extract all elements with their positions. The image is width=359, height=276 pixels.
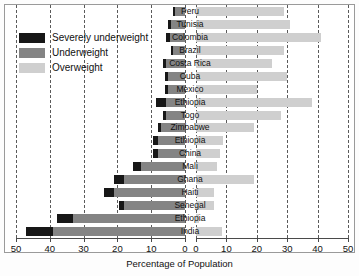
chart-figure: PeruTunisiaColombiaBrazilCosta RicaCubaM… bbox=[0, 0, 359, 276]
bar-segment-severely-underweight bbox=[26, 227, 53, 236]
country-label: Colombia bbox=[159, 33, 221, 42]
country-label: Mali bbox=[159, 162, 221, 171]
bar-segment-severely-underweight bbox=[133, 162, 141, 171]
axis-tick-label: 40 bbox=[305, 243, 331, 254]
axis-tick bbox=[348, 238, 349, 242]
bar-segment-severely-underweight bbox=[119, 201, 124, 210]
axis-tick-label: 20 bbox=[104, 243, 130, 254]
chart-legend: Severely underweight Underweight Overwei… bbox=[19, 32, 148, 77]
country-label: India bbox=[159, 227, 221, 236]
bar-segment-severely-underweight bbox=[114, 175, 124, 184]
country-label: Ghana bbox=[159, 175, 221, 184]
country-label: Ethiopia bbox=[159, 214, 221, 223]
axis-tick-label: 50 bbox=[335, 243, 359, 254]
country-label: Brazil bbox=[159, 46, 221, 55]
axis-tick-label: 10 bbox=[138, 243, 164, 254]
axis-tick bbox=[117, 238, 118, 242]
axis-tick bbox=[318, 238, 319, 242]
country-label: Togo bbox=[159, 111, 221, 120]
axis-tick-label: 10 bbox=[213, 243, 239, 254]
legend-label: Overweight bbox=[52, 63, 103, 73]
bar-segment-severely-underweight bbox=[153, 136, 158, 145]
legend-item: Underweight bbox=[19, 47, 148, 59]
bar-segment-severely-underweight bbox=[57, 214, 74, 223]
legend-swatch-overweight bbox=[19, 63, 45, 73]
axis-tick-label: 30 bbox=[71, 243, 97, 254]
gridline bbox=[348, 5, 349, 238]
left-axis-line bbox=[16, 238, 185, 239]
axis-tick bbox=[50, 238, 51, 242]
legend-label: Severely underweight bbox=[52, 33, 148, 43]
country-label: Cuba bbox=[159, 72, 221, 81]
right-axis-line bbox=[196, 238, 348, 239]
country-label: Ethiopia bbox=[159, 98, 221, 107]
axis-tick bbox=[287, 238, 288, 242]
axis-tick bbox=[257, 238, 258, 242]
axis-tick bbox=[84, 238, 85, 242]
country-label: Peru bbox=[159, 7, 221, 16]
x-axis-title: Percentage of Population bbox=[0, 258, 359, 269]
axis-tick bbox=[16, 238, 17, 242]
legend-item: Overweight bbox=[19, 62, 148, 74]
legend-label: Underweight bbox=[52, 48, 108, 58]
country-label: Haiti bbox=[159, 188, 221, 197]
country-label: Mexico bbox=[159, 85, 221, 94]
country-label: Zimbabwe bbox=[159, 123, 221, 132]
country-label: Ethiopia bbox=[159, 136, 221, 145]
axis-tick-label: 30 bbox=[274, 243, 300, 254]
axis-tick bbox=[226, 238, 227, 242]
axis-tick bbox=[185, 238, 186, 242]
country-label: Costa Rica bbox=[159, 59, 221, 68]
axis-tick bbox=[151, 238, 152, 242]
axis-tick-label: 40 bbox=[37, 243, 63, 254]
country-label-column: PeruTunisiaColombiaBrazilCosta RicaCubaM… bbox=[185, 5, 196, 238]
legend-swatch-severely-underweight bbox=[19, 33, 45, 43]
legend-swatch-underweight bbox=[19, 48, 45, 58]
bar-segment-severely-underweight bbox=[153, 149, 158, 158]
legend-item: Severely underweight bbox=[19, 32, 148, 44]
axis-tick bbox=[196, 238, 197, 242]
country-label: China bbox=[159, 149, 221, 158]
country-label: Tunisia bbox=[159, 20, 221, 29]
axis-tick-label: 20 bbox=[244, 243, 270, 254]
axis-tick-label: 50 bbox=[3, 243, 29, 254]
bar-segment-severely-underweight bbox=[104, 188, 114, 197]
axis-tick-label: 0 bbox=[183, 243, 209, 254]
country-label: Senegal bbox=[159, 201, 221, 210]
